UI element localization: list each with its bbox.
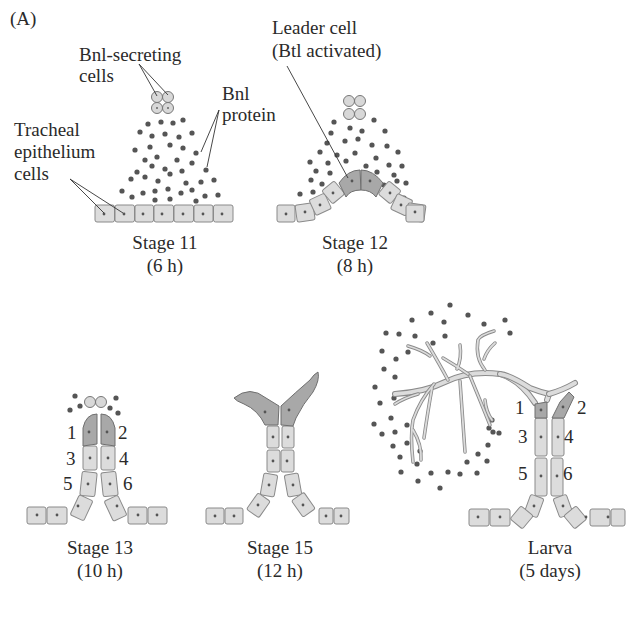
tracheal-label-line3: cells [14, 163, 49, 184]
stage11-time: (6 h) [115, 255, 215, 276]
stage13-cell-3: 3 [66, 449, 76, 469]
stage13-name: Stage 13 [45, 537, 155, 558]
larva-cell-1: 1 [515, 398, 525, 418]
tracheal-label-line2: epithelium [14, 141, 95, 162]
stage15-drawing [206, 372, 349, 524]
larva-time: (5 days) [495, 560, 605, 581]
stage15-name: Stage 15 [225, 537, 335, 558]
stage13-cell-6: 6 [123, 474, 133, 494]
stage13-cell-1: 1 [67, 423, 77, 443]
tracheal-label-line1: Tracheal [14, 119, 80, 140]
larva-cell-2: 2 [577, 398, 587, 418]
larva-cell-5: 5 [518, 464, 528, 484]
stage12-drawing [277, 66, 426, 222]
stage13-cell-4: 4 [119, 449, 129, 469]
bnl-secreting-label-line1: Bnl-secreting [79, 44, 181, 65]
diagram-artwork [0, 0, 627, 618]
larva-cell-4: 4 [564, 427, 574, 447]
stage13-time: (10 h) [45, 560, 155, 581]
leader-cell-label-line1: Leader cell [272, 17, 357, 38]
panel-label: (A) [10, 8, 36, 29]
stage12-name: Stage 12 [305, 232, 405, 253]
stage13-cell-5: 5 [63, 474, 73, 494]
larva-cell-6: 6 [563, 464, 573, 484]
larva-drawing [371, 302, 625, 529]
bnl-secreting-label-line2: cells [79, 65, 114, 86]
leader-cell-label-line2: (Btl activated) [272, 40, 381, 61]
bnl-protein-label-line1: Bnl [222, 83, 249, 104]
stage15-time: (12 h) [225, 560, 335, 581]
bnl-protein-label-line2: protein [222, 104, 276, 125]
stage12-time: (8 h) [305, 255, 405, 276]
stage11-name: Stage 11 [115, 232, 215, 253]
stage13-drawing [27, 393, 167, 524]
larva-cell-3: 3 [518, 427, 528, 447]
larva-name: Larva [495, 537, 605, 558]
stage13-cell-2: 2 [118, 423, 128, 443]
